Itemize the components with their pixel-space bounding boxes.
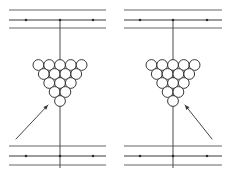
foot-spot-dot-0: [25, 155, 27, 157]
head-spot-dot-2: [206, 19, 208, 21]
foot-spot-dot-2: [206, 155, 208, 157]
foot-spot-dot-1: [59, 155, 61, 157]
foot-spot-dot-1: [172, 155, 174, 157]
foot-spot-dot-0: [139, 155, 141, 157]
rack-ball-14: [168, 96, 179, 107]
head-spot-dot-0: [139, 19, 141, 21]
figure-canvas: [0, 0, 231, 176]
head-spot-dot-1: [172, 19, 174, 21]
head-spot-dot-1: [59, 19, 61, 21]
figure-background: [0, 0, 231, 176]
rack-ball-14: [55, 96, 66, 107]
head-spot-dot-0: [25, 19, 27, 21]
figure-root: [0, 0, 231, 176]
head-spot-dot-2: [92, 19, 94, 21]
foot-spot-dot-2: [92, 155, 94, 157]
